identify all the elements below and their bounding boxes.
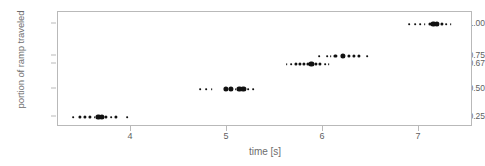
data-point bbox=[326, 55, 328, 57]
data-point bbox=[357, 54, 360, 57]
data-point bbox=[366, 55, 368, 57]
data-point bbox=[205, 88, 207, 90]
data-point bbox=[328, 63, 330, 65]
data-point bbox=[286, 63, 288, 65]
data-point bbox=[247, 88, 249, 90]
x-tick-label-7: 7 bbox=[403, 131, 433, 141]
data-point bbox=[73, 116, 75, 118]
data-point bbox=[298, 62, 301, 65]
y-tick-mark-0.67 bbox=[51, 63, 56, 64]
strip-plot-figure: portion of ramp traveled 1.000.750.670.5… bbox=[0, 0, 485, 166]
data-point bbox=[302, 62, 305, 65]
data-point bbox=[334, 54, 337, 57]
y-tick-mark-0.25 bbox=[51, 116, 56, 117]
data-point bbox=[445, 23, 447, 25]
y-tick-mark-1.00 bbox=[51, 23, 56, 24]
x-tick-mark-7 bbox=[418, 126, 419, 131]
data-point bbox=[409, 23, 411, 25]
data-point bbox=[104, 115, 107, 118]
data-point bbox=[83, 115, 86, 118]
x-tick-label-6: 6 bbox=[307, 131, 337, 141]
x-tick-label-4: 4 bbox=[115, 131, 145, 141]
x-axis-title: time [s] bbox=[57, 146, 473, 157]
y-tick-mark-0.75 bbox=[51, 55, 56, 56]
data-point bbox=[319, 62, 322, 65]
x-tick-label-5: 5 bbox=[211, 131, 241, 141]
data-point bbox=[252, 88, 254, 90]
data-point bbox=[290, 63, 292, 65]
data-point bbox=[435, 21, 440, 26]
data-point bbox=[315, 62, 318, 65]
data-point bbox=[347, 54, 350, 57]
data-point bbox=[110, 116, 112, 118]
y-axis-title: portion of ramp traveled bbox=[15, 0, 26, 124]
x-tick-mark-5 bbox=[226, 126, 227, 131]
data-point bbox=[114, 115, 117, 118]
data-point bbox=[126, 116, 128, 118]
data-point bbox=[228, 86, 233, 91]
x-tick-mark-4 bbox=[130, 126, 131, 131]
plot-area bbox=[57, 11, 472, 126]
data-point bbox=[440, 22, 443, 25]
data-point bbox=[352, 54, 355, 57]
data-point bbox=[341, 53, 346, 58]
data-point bbox=[79, 115, 82, 118]
y-tick-mark-0.50 bbox=[51, 88, 56, 89]
x-tick-mark-6 bbox=[322, 126, 323, 131]
data-point bbox=[211, 88, 213, 90]
data-point bbox=[324, 63, 326, 65]
data-point bbox=[295, 62, 298, 65]
data-point bbox=[330, 55, 332, 57]
data-point bbox=[199, 88, 201, 90]
data-point bbox=[241, 86, 246, 91]
data-point bbox=[419, 23, 421, 25]
data-point bbox=[309, 61, 314, 66]
data-point bbox=[450, 23, 452, 25]
data-point bbox=[414, 23, 416, 25]
data-point bbox=[88, 115, 91, 118]
data-point bbox=[424, 23, 426, 25]
data-point bbox=[318, 55, 320, 57]
